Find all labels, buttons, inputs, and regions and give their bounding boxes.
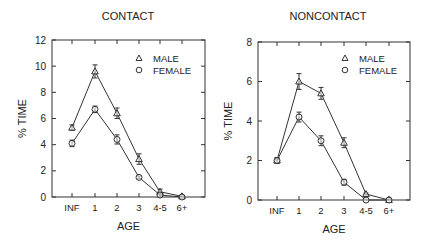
legend-circle-icon <box>136 67 142 73</box>
triangle-marker <box>296 78 303 84</box>
circle-marker <box>69 140 75 146</box>
series-male <box>69 65 186 199</box>
circle-marker <box>363 197 369 203</box>
x-tick-label: 1 <box>92 202 97 213</box>
x-tick-label: 1 <box>296 205 301 216</box>
x-axis-label: AGE <box>322 223 345 235</box>
circle-marker <box>386 197 392 203</box>
x-tick-label: 6+ <box>177 202 188 213</box>
chart-noncontact: NONCONTACT02468INF1234-56+AGE% TIMEMALEF… <box>222 10 410 235</box>
y-tick-label: 0 <box>246 195 252 206</box>
legend-triangle-icon <box>136 55 142 61</box>
x-tick-label: 3 <box>341 205 346 216</box>
y-tick-label: 4 <box>246 116 252 127</box>
y-tick-label: 10 <box>35 61 47 72</box>
legend-circle-icon <box>342 67 348 73</box>
circle-marker <box>92 106 98 112</box>
legend-triangle-icon <box>342 55 348 61</box>
chart-title: NONCONTACT <box>290 10 367 22</box>
series-male <box>274 74 393 203</box>
y-tick-label: 0 <box>40 192 46 203</box>
circle-marker <box>341 179 347 185</box>
circle-marker <box>179 194 185 200</box>
series-line <box>277 117 389 200</box>
y-tick-label: 6 <box>40 113 46 124</box>
series-female <box>274 112 392 203</box>
chart-title: CONTACT <box>102 10 155 22</box>
circle-marker <box>296 114 302 120</box>
chart-contact: CONTACT024681012INF1234-56+AGE% TIMEMALE… <box>16 10 205 232</box>
legend: MALEFEMALE <box>136 53 191 76</box>
x-tick-label: 3 <box>136 202 141 213</box>
series-line <box>72 109 182 197</box>
x-tick-label: INF <box>64 202 80 213</box>
x-tick-label: 4-5 <box>359 205 373 216</box>
circle-marker <box>114 136 120 142</box>
chart-figure: CONTACT024681012INF1234-56+AGE% TIMEMALE… <box>0 0 435 252</box>
x-tick-label: 6+ <box>384 205 395 216</box>
y-tick-label: 2 <box>40 165 46 176</box>
y-tick-label: 2 <box>246 155 252 166</box>
x-tick-label: 2 <box>114 202 119 213</box>
legend-label: FEMALE <box>359 65 397 76</box>
y-tick-label: 8 <box>246 37 252 48</box>
legend-label: MALE <box>153 53 179 64</box>
x-tick-label: 4-5 <box>153 202 167 213</box>
y-axis-label: % TIME <box>16 99 28 138</box>
triangle-marker <box>136 156 143 162</box>
triangle-marker <box>341 139 348 145</box>
series-female <box>69 106 185 200</box>
y-tick-label: 6 <box>246 76 252 87</box>
series-line <box>277 82 389 201</box>
y-tick-label: 12 <box>35 35 47 46</box>
circle-marker <box>157 192 163 198</box>
legend-label: MALE <box>359 53 385 64</box>
triangle-marker <box>114 110 121 116</box>
y-axis-label: % TIME <box>222 102 234 141</box>
plot-frame <box>52 40 205 197</box>
series-line <box>72 71 182 196</box>
legend-label: FEMALE <box>153 65 191 76</box>
circle-marker <box>318 138 324 144</box>
triangle-marker <box>92 68 99 74</box>
x-tick-label: INF <box>269 205 285 216</box>
triangle-marker <box>318 90 325 96</box>
circle-marker <box>136 174 142 180</box>
legend: MALEFEMALE <box>342 53 397 76</box>
y-tick-label: 4 <box>40 139 46 150</box>
circle-marker <box>274 158 280 164</box>
x-axis-label: AGE <box>117 220 140 232</box>
y-tick-label: 8 <box>40 87 46 98</box>
x-tick-label: 2 <box>318 205 323 216</box>
